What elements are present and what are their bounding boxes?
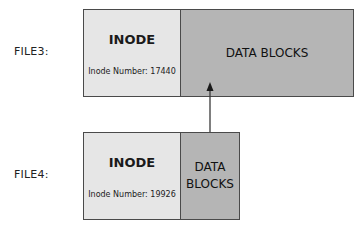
link-arrow-icon [0, 0, 362, 231]
